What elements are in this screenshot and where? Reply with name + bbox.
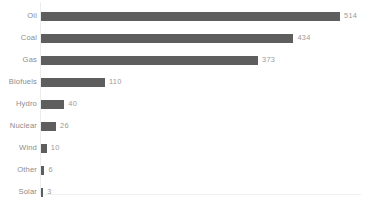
category-label: Coal — [0, 33, 41, 43]
bar-row: Oil514 — [0, 5, 369, 27]
bar-row: Coal434 — [0, 27, 369, 49]
bar-value-label: 26 — [60, 121, 69, 131]
category-label: Solar — [0, 187, 41, 197]
bar-wrap: 26 — [41, 115, 369, 137]
bar[interactable] — [41, 166, 44, 175]
bar-chart: Oil514Coal434Gas373Biofuels110Hydro40Nuc… — [0, 0, 369, 208]
bar[interactable] — [41, 100, 64, 109]
bar[interactable] — [41, 56, 258, 65]
bar-value-label: 373 — [262, 55, 275, 65]
bar[interactable] — [41, 34, 293, 43]
category-label: Other — [0, 165, 41, 175]
category-label: Biofuels — [0, 77, 41, 87]
category-label: Nuclear — [0, 121, 41, 131]
bar-row: Solar3 — [0, 181, 369, 203]
plot-area: Oil514Coal434Gas373Biofuels110Hydro40Nuc… — [0, 0, 369, 208]
bar[interactable] — [41, 188, 43, 197]
bar-value-label: 3 — [47, 187, 51, 197]
bar-value-label: 10 — [51, 143, 60, 153]
bar-value-label: 434 — [297, 33, 310, 43]
bar-value-label: 110 — [109, 77, 122, 87]
bar-wrap: 40 — [41, 93, 369, 115]
category-label: Gas — [0, 55, 41, 65]
bar[interactable] — [41, 144, 47, 153]
bar-row: Hydro40 — [0, 93, 369, 115]
bar-value-label: 40 — [68, 99, 77, 109]
bar-wrap: 514 — [41, 5, 369, 27]
category-label: Wind — [0, 143, 41, 153]
bar-wrap: 3 — [41, 181, 369, 203]
bar-value-label: 514 — [344, 11, 357, 21]
bar[interactable] — [41, 12, 340, 21]
bar-wrap: 434 — [41, 27, 369, 49]
category-label: Oil — [0, 11, 41, 21]
bar-row: Gas373 — [0, 49, 369, 71]
bar-wrap: 10 — [41, 137, 369, 159]
bar[interactable] — [41, 78, 105, 87]
bar-wrap: 373 — [41, 49, 369, 71]
bar[interactable] — [41, 122, 56, 131]
bar-row: Nuclear26 — [0, 115, 369, 137]
bar-wrap: 110 — [41, 71, 369, 93]
bar-value-label: 6 — [48, 165, 52, 175]
category-label: Hydro — [0, 99, 41, 109]
bar-row: Biofuels110 — [0, 71, 369, 93]
bar-wrap: 6 — [41, 159, 369, 181]
bar-row: Other6 — [0, 159, 369, 181]
bar-row: Wind10 — [0, 137, 369, 159]
